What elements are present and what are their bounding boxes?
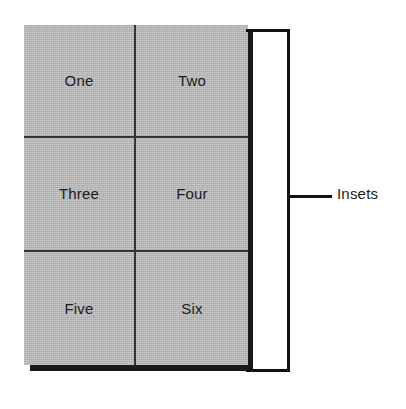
cell-label-five: Five [64,300,93,317]
cell-six: Six [136,252,248,365]
panel-shadow-bottom [30,365,253,371]
cell-label-six: Six [181,300,202,317]
cell-four: Four [136,138,248,251]
cell-three: Three [24,138,136,251]
insets-diagram: One Two Three Four Five Six Insets [0,0,406,409]
insets-annotation-label: Insets [337,185,378,202]
cell-two: Two [136,25,248,138]
insets-leader-line [290,195,332,198]
cell-label-two: Two [178,72,206,89]
insets-bracket [246,29,290,372]
cell-label-four: Four [176,185,208,202]
container-panel: One Two Three Four Five Six [24,25,248,365]
cell-one: One [24,25,136,138]
cell-five: Five [24,252,136,365]
cell-label-one: One [65,72,94,89]
cell-label-three: Three [59,185,99,202]
